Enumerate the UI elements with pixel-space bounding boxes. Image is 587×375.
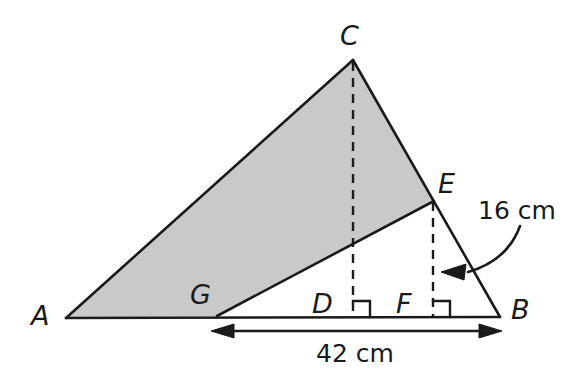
measurement-label-16cm: 16 cm [478, 198, 556, 223]
arrowhead-left-icon-42cm [211, 324, 234, 338]
geometry-canvas [0, 0, 587, 375]
geometry-diagram: A B C D E F G 16 cm 42 cm [0, 0, 587, 375]
curved-arrow-icon [468, 226, 520, 272]
vertex-label-f: F [396, 290, 412, 317]
measurement-label-42cm: 42 cm [316, 341, 394, 366]
arrowhead-right-icon-42cm [479, 324, 502, 338]
segment-ab [66, 317, 500, 318]
vertex-label-g: G [190, 281, 211, 308]
vertex-label-a: A [31, 302, 49, 329]
vertex-label-d: D [312, 290, 333, 317]
arrowhead-left-icon [441, 264, 466, 280]
right-angle-icon-f [433, 301, 450, 317]
right-angle-icon-d [353, 301, 370, 317]
vertex-label-c: C [340, 22, 359, 49]
shaded-region-aceg [66, 60, 434, 318]
vertex-label-b: B [511, 296, 530, 323]
vertex-label-e: E [438, 170, 455, 197]
